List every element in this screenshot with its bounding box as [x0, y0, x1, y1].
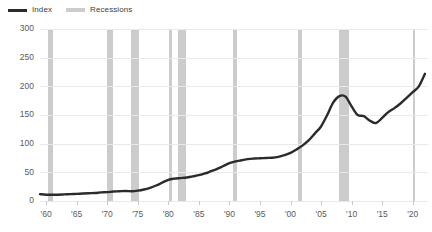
y-axis-tick-label: 0: [29, 195, 34, 205]
y-axis-tick-label: 150: [20, 109, 34, 119]
x-axis-tick-label: '90: [224, 209, 235, 219]
series-lines-group: [40, 74, 425, 195]
x-axis-tick-label: '10: [346, 209, 357, 219]
y-axis-tick-label: 50: [25, 167, 35, 177]
x-axis-labels-group: '60'65'70'75'80'85'90'95'00'05'10'15'20: [41, 209, 419, 219]
x-axis-tick-label: '00: [285, 209, 296, 219]
x-axis-tick-label: '70: [102, 209, 113, 219]
y-axis-labels-group: 050100150200250300: [20, 23, 34, 205]
chart-container: Index Recessions 050100150200250300 '60'…: [0, 0, 432, 232]
x-axis-tick-label: '95: [254, 209, 265, 219]
x-axis-tick-label: '65: [71, 209, 82, 219]
x-axis-tick-label: '15: [377, 209, 388, 219]
y-axis-tick-label: 300: [20, 23, 34, 33]
series-line-index: [40, 74, 425, 195]
y-axis-tick-label: 250: [20, 52, 34, 62]
x-axis-tick-label: '75: [132, 209, 143, 219]
x-axis-tick-label: '20: [407, 209, 418, 219]
x-axis-tick-label: '85: [193, 209, 204, 219]
y-axis-tick-label: 100: [20, 138, 34, 148]
plot-area: 050100150200250300 '60'65'70'75'80'85'90…: [0, 0, 432, 232]
x-axis-tick-label: '60: [41, 209, 52, 219]
y-axis-tick-label: 200: [20, 81, 34, 91]
x-axis-tick-label: '80: [163, 209, 174, 219]
chart-svg: 050100150200250300 '60'65'70'75'80'85'90…: [0, 0, 432, 232]
x-axis-tick-label: '05: [316, 209, 327, 219]
